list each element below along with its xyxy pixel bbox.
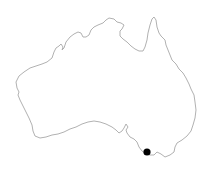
location-marker-icon[interactable]: [143, 148, 150, 155]
australia-map: [0, 0, 212, 170]
australia-outline: [16, 17, 196, 157]
map-container: [0, 0, 212, 170]
